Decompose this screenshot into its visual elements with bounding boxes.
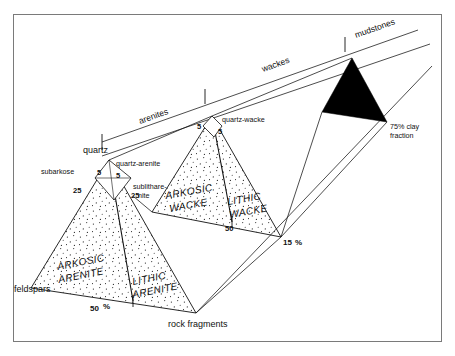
rock-fragments-vertex-label: rock fragments	[168, 319, 228, 329]
feldspars-vertex-label: feldspars	[14, 284, 51, 294]
sublitharenite-line2: nite	[138, 191, 150, 200]
back-fifteen-percent: %	[295, 238, 302, 247]
front-right-twentyfive: 25	[131, 191, 140, 200]
back-base-fifty: 50	[225, 224, 233, 233]
subarkose-label: subarkose	[41, 167, 74, 176]
clay-note-line2: fraction	[390, 131, 414, 140]
quartz-arenite-label: quartz-arenite	[116, 159, 160, 168]
front-base-percent: %	[103, 302, 110, 311]
arenites-label: arenites	[137, 106, 169, 126]
wackes-label: wackes	[259, 55, 290, 74]
clay-fraction-note: 75% clay fraction	[390, 122, 420, 140]
quartz-wacke-label: quartz-wacke	[222, 115, 265, 124]
back-fifteen-value: 15	[283, 238, 292, 247]
front-left-twentyfive: 25	[73, 186, 82, 195]
back-left-five: 5	[197, 122, 202, 131]
axis-band	[102, 30, 430, 156]
sublitharenite-line1: sublithare-	[133, 182, 167, 191]
mudstones-label: mudstones	[353, 16, 396, 39]
sandstone-classification-diagram: arenites wackes mudstones 75% clay	[0, 0, 455, 356]
quartz-vertex-label: quartz	[83, 145, 109, 155]
front-base-fifty: 50	[90, 304, 99, 313]
figure-page: arenites wackes mudstones 75% clay	[0, 0, 455, 356]
clay-note-line1: 75% clay	[390, 122, 420, 131]
mudstone-field	[322, 58, 387, 122]
